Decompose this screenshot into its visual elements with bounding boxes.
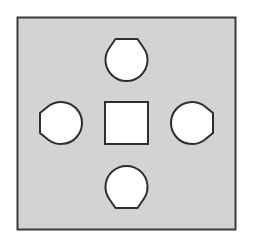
center-square-hole [105,102,148,144]
bottom-truncated-circle-hole [105,166,147,208]
left-truncated-circle-hole [40,102,82,144]
diagram-canvas [0,0,253,238]
right-truncated-circle-hole [171,102,213,144]
plate-with-holes-diagram [0,0,253,238]
top-truncated-circle-hole [105,39,147,81]
